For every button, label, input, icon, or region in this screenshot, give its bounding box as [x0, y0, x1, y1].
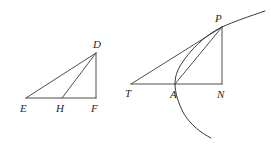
- point-label-A: A: [169, 88, 177, 100]
- segment-AP: [175, 27, 222, 84]
- figure-canvas: E H F D T A N P: [0, 0, 271, 148]
- point-label-F: F: [90, 102, 98, 114]
- geometry-figure: E H F D T A N P: [0, 0, 271, 148]
- point-label-D: D: [92, 38, 101, 50]
- segment-HD: [62, 53, 96, 98]
- segment-ED: [26, 53, 96, 98]
- right-figure-parabola: T A N P: [125, 11, 265, 138]
- point-label-H: H: [55, 102, 65, 114]
- point-label-E: E: [19, 102, 27, 114]
- left-figure-triangle-EDF: E H F D: [19, 38, 101, 114]
- point-label-T: T: [125, 87, 132, 99]
- point-label-N: N: [216, 88, 225, 100]
- point-label-P: P: [214, 12, 222, 24]
